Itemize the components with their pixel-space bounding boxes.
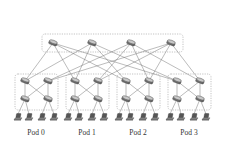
pod-1-label: Pod 1 (78, 128, 96, 137)
pod-0-aggregation-switch-1-icon (43, 77, 53, 84)
core-switch-1-icon (87, 39, 97, 46)
pod-1-host-2-icon (88, 114, 96, 121)
pod-2-edge-0-host-0-link (119, 99, 126, 114)
pod-3-edge-1-host-0-link (194, 99, 200, 114)
pod-0-label: Pod 0 (27, 128, 45, 137)
pod-2-edge-1-host-0-link (143, 99, 149, 114)
pod-0-edge-0-host-0-link (18, 99, 25, 114)
pod-0-host-0-icon (14, 114, 22, 121)
pod-2-label: Pod 2 (129, 128, 147, 137)
core-3-to-pod-3-link (171, 43, 200, 81)
fat-tree-diagram: Pod 0Pod 1Pod 2Pod 3 (0, 0, 228, 143)
pod-1-aggregation-switch-1-icon (93, 77, 103, 84)
pod-1-edge-switch-1-icon (93, 95, 103, 102)
pod-3-edge-0-host-0-link (170, 99, 177, 114)
pod-labels: Pod 0Pod 1Pod 2Pod 3 (27, 128, 198, 137)
pod-2-aggregation-switch-1-icon (144, 77, 154, 84)
pod-3-host-2-icon (190, 114, 198, 121)
pod-3-host-3-icon (202, 114, 210, 121)
core-0-to-pod-0-link (25, 43, 53, 81)
pod-2-host-0-icon (115, 114, 123, 121)
pod-0-aggregation-switch-0-icon (20, 77, 30, 84)
network-nodes (14, 39, 210, 120)
pod-1-host-1-icon (75, 114, 83, 121)
pod-0-edge-1-host-0-link (42, 99, 48, 114)
pod-3-edge-switch-1-icon (195, 95, 205, 102)
pod-2-aggregation-switch-0-icon (121, 77, 131, 84)
pod-2-host-1-icon (126, 114, 134, 121)
core-2-to-pod-3-link (131, 43, 200, 81)
pod-0-host-2-icon (38, 114, 46, 121)
pod-0-host-3-icon (50, 114, 58, 121)
pod-1-host-0-icon (64, 114, 72, 121)
core-1-to-pod-0-link (25, 43, 92, 81)
pod-3-aggregation-switch-1-icon (195, 77, 205, 84)
pod-1-host-3-icon (100, 114, 108, 121)
pod-3-host-1-icon (177, 114, 185, 121)
core-layer-box (42, 34, 183, 52)
core-switch-2-icon (126, 39, 136, 46)
pod-0-edge-switch-1-icon (43, 95, 53, 102)
pod-2-host-2-icon (139, 114, 147, 121)
pod-3-host-0-icon (166, 114, 174, 121)
pod-1-edge-0-host-0-link (68, 99, 75, 114)
core-switch-3-icon (166, 39, 176, 46)
pod-2-edge-switch-1-icon (144, 95, 154, 102)
core-switch-0-icon (48, 39, 58, 46)
core-2-to-pod-2-link (131, 43, 149, 81)
pod-2-host-3-icon (151, 114, 159, 121)
pod-1-aggregation-switch-0-icon (70, 77, 80, 84)
core-1-to-pod-3-link (92, 43, 177, 81)
pod-3-label: Pod 3 (180, 128, 198, 137)
pod-3-aggregation-switch-0-icon (172, 77, 182, 84)
pod-0-host-1-icon (25, 114, 33, 121)
pod-1-edge-1-host-0-link (92, 99, 98, 114)
